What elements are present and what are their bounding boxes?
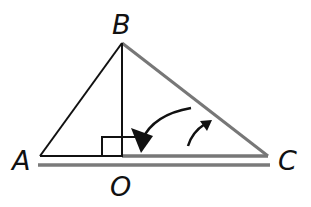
right-angle-marker bbox=[102, 137, 122, 156]
arrowhead-large-icon bbox=[131, 128, 153, 153]
label-a: A bbox=[10, 145, 30, 176]
label-o: O bbox=[110, 171, 131, 202]
label-b: B bbox=[112, 9, 131, 40]
rotation-arrow-small-icon bbox=[188, 124, 205, 146]
segment-ab bbox=[40, 43, 122, 156]
triangle-diagram: B A C O bbox=[0, 0, 311, 207]
label-c: C bbox=[278, 145, 297, 176]
